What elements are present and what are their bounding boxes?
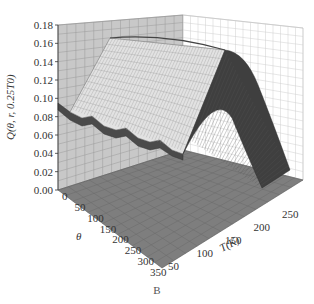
t-tick-label: 200 <box>254 221 271 233</box>
t-tick-label: 100 <box>197 247 214 259</box>
z-tick-label: 0.16 <box>34 37 54 49</box>
z-tick-label: 0.18 <box>34 19 54 31</box>
z-tick-label: 0.12 <box>34 74 53 86</box>
z-axis-label: Q(θ, r, 0.25T0) <box>4 74 17 140</box>
z-tick-label: 0.00 <box>34 184 54 196</box>
theta-tick-label: 50 <box>75 201 87 213</box>
z-tick-label: 0.14 <box>34 56 54 68</box>
z-tick-label: 0.04 <box>34 147 54 159</box>
z-tick-label: 0.08 <box>34 111 54 123</box>
theta-tick-label: 350 <box>150 266 167 278</box>
theta-axis-label: θ <box>76 230 82 242</box>
t-tick-label: 250 <box>282 208 299 220</box>
surface-plot: 0.000.020.040.060.080.100.120.140.160.18… <box>0 0 314 304</box>
panel-label: B <box>0 284 314 296</box>
z-tick-label: 0.10 <box>34 92 54 104</box>
theta-tick-label: 0 <box>62 190 68 202</box>
z-axis: 0.000.020.040.060.080.100.120.140.160.18… <box>4 19 58 196</box>
z-tick-label: 0.06 <box>34 129 54 141</box>
t-tick-label: 50 <box>168 260 180 272</box>
z-tick-label: 0.02 <box>34 166 53 178</box>
